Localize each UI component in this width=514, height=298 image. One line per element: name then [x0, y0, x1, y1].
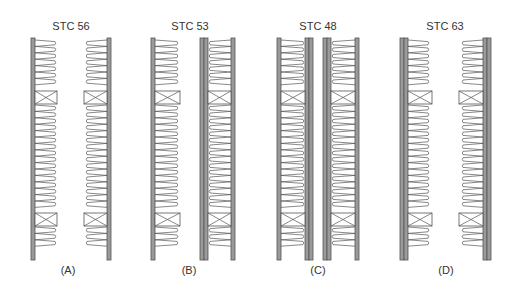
insulation-batt-icon	[155, 40, 178, 85]
insulation-batt-icon	[86, 105, 107, 207]
insulation-batt-icon	[86, 40, 107, 85]
panel-d-left-board-2	[404, 38, 408, 260]
panel-d-right-board-2	[487, 38, 491, 260]
panel-d-right-board-1	[483, 38, 487, 260]
panel-b-title: STC 53	[171, 20, 208, 32]
insulation-batt-icon	[35, 40, 56, 85]
panel-c-inner-board-4	[327, 38, 331, 260]
insulation-batt-icon	[332, 227, 355, 246]
panel-c-left-board	[277, 38, 281, 260]
insulation-batt-icon	[332, 105, 355, 207]
insulation-batt-icon	[281, 40, 304, 85]
insulation-batt-icon	[462, 105, 483, 207]
insulation-batt-icon	[408, 227, 429, 246]
panel-a-left-board	[31, 38, 35, 260]
panel-b-center-board-2	[204, 38, 208, 260]
panel-a-title: STC 56	[52, 20, 89, 32]
panel-a-right-board	[107, 38, 111, 260]
insulation-batt-icon	[209, 105, 231, 207]
insulation-batt-icon	[408, 105, 429, 207]
panel-c-title: STC 48	[299, 20, 336, 32]
insulation-batt-icon	[86, 227, 107, 246]
insulation-batt-icon	[408, 40, 429, 85]
panel-b-right-board	[231, 38, 235, 260]
insulation-batt-icon	[209, 227, 231, 246]
insulation-batt-icon	[155, 227, 178, 246]
insulation-batt-icon	[281, 105, 304, 207]
insulation-batt-icon	[332, 40, 355, 85]
insulation-batt-icon	[155, 105, 178, 207]
insulation-batt-icon	[462, 227, 483, 246]
insulation-batt-icon	[35, 227, 56, 246]
panel-b-center-board-1	[200, 38, 204, 260]
panel-c-right-board	[355, 38, 359, 260]
insulation-batt-icon	[35, 105, 56, 207]
panel-b-left-board	[151, 38, 155, 260]
insulation-batt-icon	[462, 40, 483, 85]
panel-c-inner-board-2	[309, 38, 313, 260]
insulation-batt-icon	[281, 227, 304, 246]
panel-b-caption: (B)	[182, 264, 197, 276]
panel-c-inner-board-1	[305, 38, 309, 260]
panel-d-caption: (D)	[438, 264, 453, 276]
panel-c-caption: (C)	[310, 264, 325, 276]
panel-d-title: STC 63	[426, 20, 463, 32]
panel-d-left-board-1	[400, 38, 404, 260]
insulation-batt-icon	[209, 40, 231, 85]
panel-a-caption: (A)	[61, 264, 76, 276]
panel-c-inner-board-3	[323, 38, 327, 260]
wall-assembly-diagram: STC 56 STC 53 STC 48 STC 63 (A) (B) (C) …	[0, 0, 514, 298]
diagram-canvas	[0, 0, 514, 298]
